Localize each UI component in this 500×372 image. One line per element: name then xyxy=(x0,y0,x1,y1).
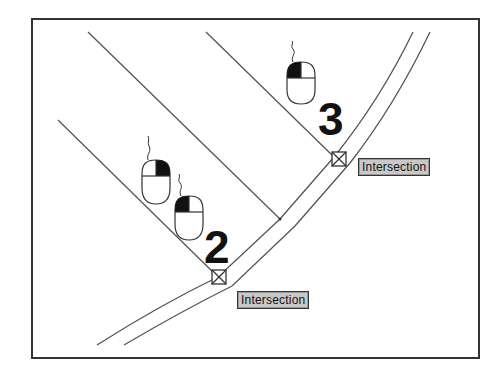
intersection-snap-tooltip: Intersection xyxy=(358,158,430,176)
mouse-left-click-icon xyxy=(287,41,315,104)
intersection-snap-tooltip: Intersection xyxy=(237,291,309,309)
intersection-point xyxy=(279,218,282,221)
mouse-left-click-icon xyxy=(175,174,203,240)
intersection-snap-marker-icon xyxy=(332,152,346,166)
diagram-canvas xyxy=(0,0,500,372)
step-number-3: 3 xyxy=(318,96,344,142)
mouse-right-click-icon xyxy=(142,136,170,204)
parallel-line-1 xyxy=(88,32,280,219)
step-number-2: 2 xyxy=(204,224,230,270)
